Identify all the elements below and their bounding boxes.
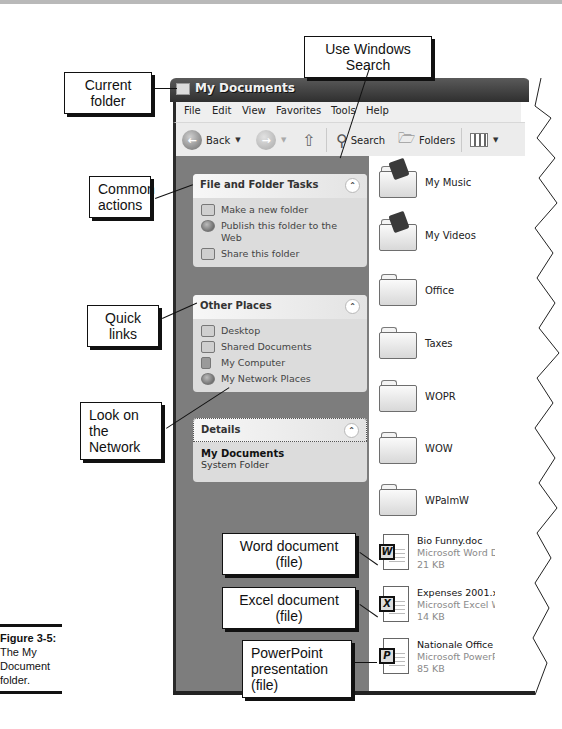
- excel-worksheet-icon: X: [379, 586, 409, 624]
- file-folder-tasks-panel: File and Folder Tasks ⌃ Make a new folde…: [193, 174, 367, 267]
- views-dropdown-icon[interactable]: ▼: [493, 136, 498, 144]
- new-folder-icon: [201, 204, 215, 216]
- folders-label: Folders: [419, 135, 455, 146]
- toolbar-separator: [461, 128, 462, 152]
- folder-item-wopr[interactable]: WOPR: [379, 380, 456, 412]
- file-item-expenses[interactable]: X Expenses 2001.xls Microsoft Excel Work…: [379, 586, 495, 624]
- file-size: 21 KB: [417, 559, 495, 571]
- torn-edge-decoration: [529, 78, 562, 695]
- menu-favorites[interactable]: Favorites: [276, 105, 321, 116]
- folder-icon: [379, 380, 417, 412]
- word-document-icon: W: [379, 534, 409, 572]
- views-button[interactable]: ▼: [470, 129, 498, 151]
- file-type: Microsoft Excel Worksheet: [417, 599, 495, 611]
- panel-title: File and Folder Tasks: [200, 179, 318, 190]
- menu-file[interactable]: File: [184, 105, 201, 116]
- powerpoint-presentation-icon: P: [379, 638, 409, 676]
- callout-network: Look on the Network: [80, 402, 162, 460]
- details-folder-name: My Documents: [201, 448, 359, 459]
- forward-arrow-icon: →: [256, 130, 276, 150]
- publish-folder-link[interactable]: Publish this folder to the Web: [201, 220, 359, 244]
- folder-item-my-videos[interactable]: My Videos: [379, 219, 476, 251]
- folders-icon: 🗁: [398, 128, 415, 152]
- file-type: Microsoft PowerPoint Presentation: [417, 651, 495, 663]
- back-dropdown-icon[interactable]: ▼: [235, 136, 240, 144]
- caption-rule: [0, 691, 62, 694]
- folder-icon: [379, 274, 417, 306]
- details-panel: Details ⌃ My Documents System Folder: [193, 418, 367, 482]
- toolbar-separator: [326, 128, 327, 152]
- folder-icon: [379, 432, 417, 464]
- callout-current-folder: Current folder: [64, 72, 152, 114]
- file-size: 14 KB: [417, 611, 495, 623]
- window-bottom-frame: [173, 691, 535, 695]
- callout-common-actions: Common actions: [89, 176, 151, 218]
- menu-view[interactable]: View: [242, 105, 266, 116]
- search-label: Search: [351, 135, 385, 146]
- up-folder-icon: ⇧: [302, 131, 315, 150]
- share-folder-icon: [201, 248, 215, 260]
- make-new-folder-link[interactable]: Make a new folder: [201, 204, 359, 216]
- figure-text: The My Document folder.: [0, 645, 62, 687]
- views-grid-icon: [470, 133, 488, 147]
- file-name: Expenses 2001.xls: [417, 587, 495, 599]
- folder-item-wpalmw[interactable]: WPalmW: [379, 484, 469, 516]
- figure-caption: Figure 3-5: The My Document folder.: [0, 620, 62, 698]
- panel-title: Details: [201, 424, 240, 435]
- forward-dropdown-icon[interactable]: ▼: [281, 136, 286, 144]
- folder-item-my-music[interactable]: My Music: [379, 166, 471, 198]
- menu-bar: File Edit View Favorites Tools Help: [173, 102, 521, 122]
- forward-button[interactable]: → ▼: [256, 129, 286, 151]
- folder-item-wow[interactable]: WOW: [379, 432, 453, 464]
- file-list: My Music My Videos Office Taxes WOPR WOW…: [369, 156, 529, 693]
- window-title: My Documents: [195, 81, 295, 95]
- panel-title: Other Places: [200, 300, 272, 311]
- share-folder-link[interactable]: Share this folder: [201, 248, 359, 260]
- my-documents-icon: [176, 83, 190, 95]
- figure-label: Figure 3-5:: [0, 632, 56, 644]
- music-folder-icon: [379, 166, 417, 198]
- shared-documents-link[interactable]: Shared Documents: [201, 341, 359, 353]
- back-arrow-icon: ←: [182, 130, 202, 150]
- up-folder-button[interactable]: ⇧: [302, 129, 315, 151]
- desktop-icon: [201, 325, 215, 337]
- folder-icon: [379, 484, 417, 516]
- folder-icon: [201, 341, 215, 353]
- file-type: Microsoft Word Document: [417, 547, 495, 559]
- callout-excel: Excel document (file): [222, 587, 356, 629]
- folder-icon: [379, 327, 417, 359]
- other-places-panel: Other Places ⌃ Desktop Shared Documents …: [193, 295, 367, 392]
- file-folder-tasks-header[interactable]: File and Folder Tasks ⌃: [193, 174, 367, 198]
- folder-item-office[interactable]: Office: [379, 274, 454, 306]
- details-header[interactable]: Details ⌃: [193, 418, 367, 442]
- file-size: 85 KB: [417, 663, 495, 675]
- my-network-places-link[interactable]: My Network Places: [201, 373, 359, 385]
- collapse-chevron-icon[interactable]: ⌃: [345, 178, 360, 193]
- folders-button[interactable]: 🗁 Folders: [398, 129, 455, 151]
- desktop-link[interactable]: Desktop: [201, 325, 359, 337]
- callout-word: Word document (file): [222, 533, 356, 575]
- menu-tools[interactable]: Tools: [331, 105, 356, 116]
- page-top-rule: [0, 0, 562, 4]
- caption-rule: [0, 624, 62, 627]
- leader-line: [155, 88, 177, 89]
- menu-edit[interactable]: Edit: [212, 105, 231, 116]
- file-item-nationale-office-dag[interactable]: P Nationale Office Dag.ppt Microsoft Pow…: [379, 638, 495, 676]
- callout-quick-links: Quick links: [87, 305, 159, 347]
- other-places-header[interactable]: Other Places ⌃: [193, 295, 367, 319]
- folder-item-taxes[interactable]: Taxes: [379, 327, 453, 359]
- file-name: Bio Funny.doc: [417, 535, 495, 547]
- back-button[interactable]: ← Back ▼: [182, 129, 241, 151]
- back-label: Back: [206, 135, 230, 146]
- computer-icon: [201, 357, 211, 369]
- menu-help[interactable]: Help: [366, 105, 389, 116]
- file-item-bio-funny[interactable]: W Bio Funny.doc Microsoft Word Document …: [379, 534, 495, 572]
- network-icon: [201, 373, 215, 385]
- my-computer-link[interactable]: My Computer: [201, 357, 359, 369]
- leader-line: [355, 662, 377, 663]
- globe-icon: [201, 220, 215, 232]
- title-bar: My Documents: [170, 78, 530, 102]
- details-folder-type: System Folder: [201, 459, 359, 470]
- collapse-chevron-icon[interactable]: ⌃: [344, 423, 359, 438]
- collapse-chevron-icon[interactable]: ⌃: [345, 299, 360, 314]
